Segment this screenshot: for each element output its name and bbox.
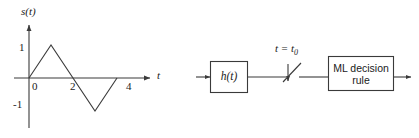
plot-xtick-4: 4: [126, 81, 132, 92]
plot-y-axis-label: s(t): [21, 6, 36, 17]
sampler-label-prefix: t = t: [275, 42, 294, 54]
signal-plot-group: [14, 25, 150, 128]
plot-xtick-0: 0: [32, 81, 38, 92]
figure-canvas: s(t) t 1 -1 0 2 4 h(t) t = t0 ML decisio…: [0, 0, 419, 138]
plot-x-axis-label: t: [157, 70, 160, 81]
sampler-label-subscript: 0: [294, 48, 298, 57]
plot-ytick-pos1: 1: [19, 42, 25, 53]
sampler-label: t = t0: [275, 43, 298, 57]
ml-decision-rule-line2: rule: [352, 74, 370, 86]
plot-xtick-2: 2: [70, 81, 76, 92]
sampler-switch-blade[interactable]: [283, 63, 301, 82]
filter-block-label: h(t): [210, 70, 248, 84]
ml-decision-rule-line1: ML decision: [333, 62, 389, 74]
ml-decision-rule-label: ML decisionrule: [328, 62, 394, 87]
plot-ytick-neg1: -1: [13, 99, 22, 110]
